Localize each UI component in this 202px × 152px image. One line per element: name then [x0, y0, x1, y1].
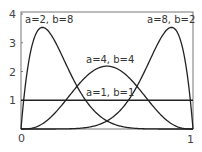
x-tick-0: 0	[18, 132, 25, 145]
y-tick-2: 2	[9, 66, 16, 79]
y-tick-4: 4	[9, 8, 16, 21]
label-a8-b2: a=8, b=2	[147, 14, 195, 25]
y-tick-3: 3	[9, 37, 16, 50]
label-a4-b4: a=4, b=4	[86, 54, 134, 65]
curves	[21, 27, 193, 129]
label-a1-b1: a=1, b=1	[86, 87, 134, 98]
beta-distribution-chart: 1234 0 1 a=2, b=8 a=4, b=4 a=8, b=2 a=1,…	[0, 0, 202, 152]
label-a2-b8: a=2, b=8	[25, 14, 73, 25]
y-tick-1: 1	[9, 94, 16, 107]
curve-a-2-b-8	[21, 27, 193, 129]
curve-a-8-b-2	[21, 27, 193, 129]
x-tick-1: 1	[187, 133, 194, 146]
